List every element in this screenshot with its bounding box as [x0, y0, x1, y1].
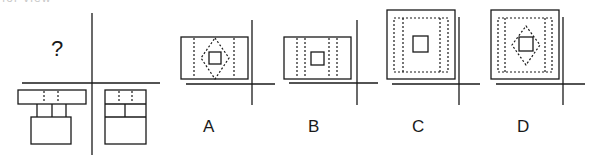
option-b-figure[interactable]	[284, 20, 378, 105]
unknown-view-marker: ?	[51, 38, 63, 60]
option-d-label[interactable]: D	[517, 118, 529, 135]
option-c-figure[interactable]	[387, 10, 480, 105]
question-figure	[18, 13, 160, 155]
side-view	[105, 90, 146, 144]
front-view	[18, 90, 86, 144]
option-d-figure[interactable]	[491, 10, 585, 105]
option-a-figure[interactable]	[181, 20, 275, 105]
option-a-label[interactable]: A	[203, 118, 214, 135]
option-b-label[interactable]: B	[308, 118, 319, 135]
option-c-label[interactable]: C	[412, 118, 424, 135]
three-view-diagram	[0, 0, 590, 160]
